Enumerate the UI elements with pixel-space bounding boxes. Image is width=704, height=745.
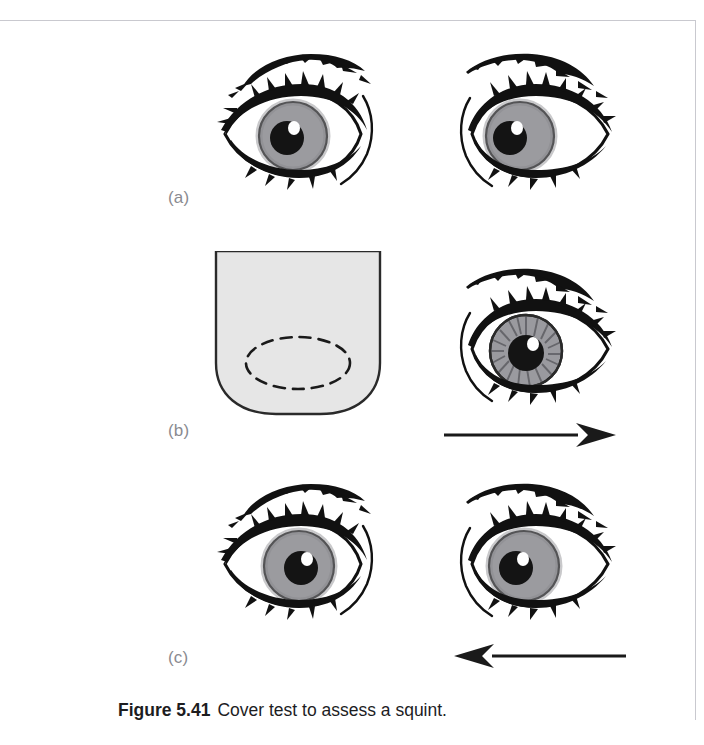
arrow-right-icon	[430, 415, 640, 455]
eye-illustration	[430, 253, 640, 418]
panel-a-left-eye	[195, 38, 405, 203]
figure-caption-number: Figure 5.41	[118, 700, 210, 720]
pupil	[508, 335, 544, 371]
corneal-highlight	[301, 552, 313, 566]
eye-illustration	[430, 38, 640, 203]
arrow-left-icon	[430, 636, 640, 676]
corneal-highlight	[288, 121, 300, 135]
panel-c-arrow	[430, 636, 640, 676]
corneal-highlight	[527, 337, 539, 351]
corneal-highlight	[511, 121, 523, 135]
panel-label-c: (c)	[168, 648, 188, 668]
panel-a-right-eye	[430, 38, 640, 203]
eye-illustration	[195, 38, 405, 203]
eye-illustration	[430, 468, 640, 633]
occluder-paddle-illustration	[198, 251, 398, 426]
panel-b-arrow	[430, 415, 640, 455]
panel-b-right-eye	[430, 253, 640, 418]
figure-panel-c: (c)	[0, 458, 696, 680]
eye-illustration	[195, 468, 405, 633]
figure-panel-b: (b)	[0, 243, 696, 458]
panel-c-right-eye	[430, 468, 640, 633]
panel-label-b: (b)	[168, 421, 189, 441]
corneal-highlight	[517, 552, 529, 566]
panel-b-occluder	[198, 251, 398, 426]
figure-illustration: (a)	[0, 20, 696, 680]
panel-c-left-eye	[195, 468, 405, 633]
figure-panel-a: (a)	[0, 28, 696, 243]
pupil	[284, 551, 318, 585]
figure-caption: Figure 5.41Cover test to assess a squint…	[118, 700, 678, 721]
panel-label-a: (a)	[168, 188, 189, 208]
figure-caption-text: Cover test to assess a squint.	[217, 700, 447, 720]
